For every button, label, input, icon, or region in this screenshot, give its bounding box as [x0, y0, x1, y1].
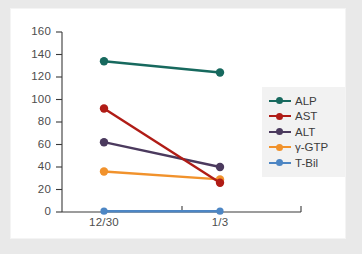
chart-legend: ALP AST ALT γ- — [262, 87, 345, 177]
legend-label-alt: ALT — [295, 126, 315, 138]
legend-label-ast: AST — [295, 110, 317, 122]
x-tick-label-1230: 12/30 — [76, 216, 132, 228]
legend-item-gamma-gtp[interactable]: γ-GTP — [262, 140, 345, 156]
legend-label-alp: ALP — [295, 95, 317, 107]
y-tick-label-20: 20 — [11, 183, 51, 195]
y-tick-label-80: 80 — [11, 115, 51, 127]
y-tick-label-40: 40 — [11, 160, 51, 172]
legend-marker-t-bil-icon — [269, 158, 291, 168]
series-gamma-gtp — [100, 167, 224, 183]
legend-marker-ast-icon — [269, 111, 291, 121]
chart-screenshot: 160 140 120 100 80 60 40 20 0 12/30 1/3 … — [0, 0, 362, 254]
legend-marker-gamma-gtp-icon — [269, 142, 291, 152]
legend-item-alt[interactable]: ALT — [262, 124, 345, 140]
legend-item-t-bil[interactable]: T-Bil — [262, 155, 345, 171]
legend-marker-alp-icon — [269, 96, 291, 106]
y-tick-label-160: 160 — [11, 25, 51, 37]
legend-item-ast[interactable]: AST — [262, 109, 345, 125]
y-axis-ticks — [56, 32, 62, 212]
chart-card: 160 140 120 100 80 60 40 20 0 12/30 1/3 … — [11, 9, 345, 238]
y-tick-label-120: 120 — [11, 70, 51, 82]
legend-item-alp[interactable]: ALP — [262, 93, 345, 109]
y-tick-label-140: 140 — [11, 48, 51, 60]
legend-marker-alt-icon — [269, 127, 291, 137]
legend-label-gamma-gtp: γ-GTP — [295, 141, 328, 153]
legend-label-t-bil: T-Bil — [295, 157, 318, 169]
y-tick-label-0: 0 — [11, 205, 51, 217]
y-tick-label-60: 60 — [11, 138, 51, 150]
x-tick-label-13: 1/3 — [192, 216, 248, 228]
y-tick-label-100: 100 — [11, 93, 51, 105]
series-alp — [100, 57, 224, 77]
series-t-bil — [100, 208, 223, 215]
series-alt — [100, 138, 224, 171]
